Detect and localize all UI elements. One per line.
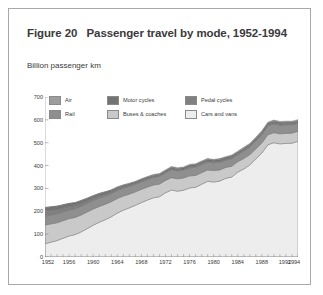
x-tick-label: 1964: [111, 259, 123, 265]
chart-svg-canvas: [45, 97, 298, 257]
x-tick-label: 1984: [232, 259, 244, 265]
x-tick-label: 1980: [207, 259, 219, 265]
y-axis-unit-label: Billion passenger km: [27, 61, 101, 70]
y-tick-label: 0: [21, 254, 43, 260]
y-tick-label: 700: [21, 94, 43, 100]
y-tick-label: 400: [21, 163, 43, 169]
y-tick-label: 600: [21, 117, 43, 123]
y-tick-label: 100: [21, 231, 43, 237]
y-tick-label: 200: [21, 208, 43, 214]
y-tick-label: 500: [21, 140, 43, 146]
x-tick-label: 1956: [63, 259, 75, 265]
area-band-cars-and-vans: [45, 141, 298, 257]
y-axis-tick-labels: 0100200300400500600700: [17, 97, 43, 257]
figure-frame: Figure 20 Passenger travel by mode, 1952…: [8, 8, 311, 285]
area-bands: [45, 120, 298, 257]
x-tick-label: 1968: [135, 259, 147, 265]
stacked-area-chart-plot: [45, 97, 298, 257]
x-tick-label: 1972: [159, 259, 171, 265]
x-tick-label: 1976: [183, 259, 195, 265]
x-tick-label: 1960: [87, 259, 99, 265]
y-tick-label: 300: [21, 185, 43, 191]
page-title: Figure 20 Passenger travel by mode, 1952…: [27, 27, 287, 39]
x-tick-label: 1988: [256, 259, 268, 265]
x-axis-tick-labels: 1952195619601964196819721976198019841988…: [45, 259, 298, 271]
x-tick-label: 1994: [288, 259, 300, 265]
x-tick-label: 1952: [42, 259, 54, 265]
